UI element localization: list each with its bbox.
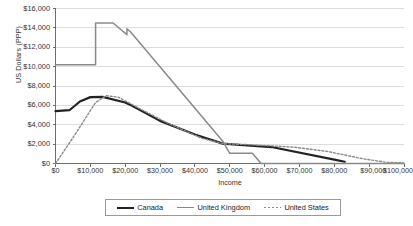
legend-item-united-states[interactable]: United States (264, 203, 328, 212)
y-axis-tick-label: $8,000 (6, 82, 50, 90)
y-axis-tick-label: $0 (6, 160, 50, 168)
x-axis-tick-label: $10,000 (77, 166, 103, 175)
legend-line-united-states-icon (264, 206, 281, 210)
x-axis-tick-label: $40,000 (182, 166, 208, 175)
y-axis-tick-label: $12,000 (6, 43, 50, 51)
x-axis-tick-label: $80,000 (321, 166, 347, 175)
x-axis-tick-label: $100,000 (383, 166, 413, 175)
x-axis-tick-label: $70,000 (286, 166, 312, 175)
legend-line-united-kingdom-icon (177, 207, 194, 208)
y-axis-tick-label: $6,000 (6, 101, 50, 109)
legend-item-canada[interactable]: Canada (117, 203, 163, 212)
x-axis-tick-label: $0 (52, 166, 60, 175)
legend-label-united-states: United States (284, 203, 328, 212)
x-axis-title: Income (55, 178, 405, 187)
x-axis-tick-label: $30,000 (147, 166, 173, 175)
x-axis-tick-label: $20,000 (112, 166, 138, 175)
legend-item-united-kingdom[interactable]: United Kingdom (177, 203, 250, 212)
x-axis-tick-label: $50,000 (217, 166, 243, 175)
y-axis-tick-label: $16,000 (6, 5, 50, 13)
y-axis-tick-labels: $0$2,000$4,000$6,000$8,000$10,000$12,000… (0, 0, 50, 226)
series-line-united-kingdom (56, 23, 405, 163)
y-axis-tick-label: $10,000 (6, 63, 50, 71)
y-axis-tick-label: $14,000 (6, 24, 50, 32)
y-axis-tick-label: $2,000 (6, 140, 50, 148)
series-line-canada (56, 97, 345, 162)
legend-line-canada-icon (117, 207, 134, 209)
legend-label-canada: Canada (137, 203, 163, 212)
y-axis-tick-label: $4,000 (6, 121, 50, 129)
x-axis-tick-label: $60,000 (252, 166, 278, 175)
chart-legend: Canada United Kingdom United States (105, 199, 341, 216)
legend-label-united-kingdom: United Kingdom (197, 203, 250, 212)
